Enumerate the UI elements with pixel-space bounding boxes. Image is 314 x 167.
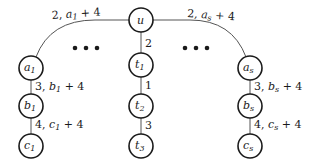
edge-label-u-as: 2, as + 4 (187, 7, 236, 24)
node-a1: a1 (19, 56, 43, 80)
ellipsis-left (73, 46, 100, 51)
edge-label-as-bs: 3, bs + 4 (254, 80, 302, 94)
edge-u-a1 (36, 20, 130, 57)
edge-label-t1-t2: 1 (145, 79, 152, 92)
node-bs: bs (238, 94, 262, 118)
node-as: as (238, 56, 262, 80)
node-t1: t1 (129, 53, 153, 77)
edge-label-bs-cs: 4, cs + 4 (254, 118, 302, 132)
node-b1: b1 (19, 94, 43, 118)
svg-text:u: u (137, 14, 144, 27)
node-t2: t2 (129, 94, 153, 118)
edge-label-b1-c1: 4, c1 + 4 (35, 118, 83, 132)
edge-label-a1-b1: 3, b1 + 4 (35, 80, 84, 94)
edge-label-t2-t3: 3 (145, 119, 152, 132)
node-cs: cs (238, 134, 262, 158)
node-t3: t3 (129, 134, 153, 158)
tree-diagram: 2, a1 + 4 2, as + 4 3, b1 + 4 4, c1 + 4 … (0, 0, 314, 167)
edge-u-as (152, 20, 246, 57)
edge-label-u-t1: 2 (145, 37, 152, 50)
node-u: u (129, 8, 153, 32)
ellipsis-right (183, 46, 210, 51)
node-c1: c1 (19, 134, 43, 158)
